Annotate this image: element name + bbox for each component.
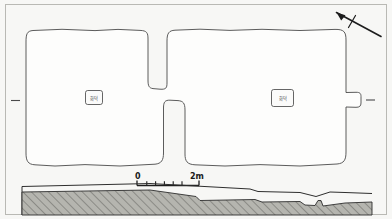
- hearth-label: 화덕: [279, 95, 287, 102]
- right-hearth: 화덕: [272, 90, 294, 107]
- scale-end-label: 2m: [190, 172, 204, 181]
- scale-start-label: 0: [135, 172, 141, 181]
- hearth-label: 화덕: [90, 95, 98, 102]
- site-plan-figure: 화덕 화덕 0 2m: [0, 0, 392, 219]
- left-hearth: 화덕: [86, 91, 103, 105]
- chamber-outline: [26, 29, 361, 166]
- left-chamber: [26, 29, 361, 166]
